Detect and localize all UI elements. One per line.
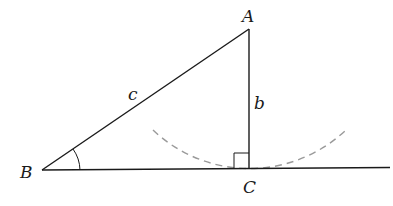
vertex-label-c: C (243, 177, 256, 197)
dashed-arc (153, 128, 348, 169)
side-label-c: c (128, 84, 138, 104)
baseline (42, 168, 390, 171)
angle-arc-b (73, 149, 80, 170)
vertex-label-b: B (19, 162, 33, 182)
right-angle-marker (234, 153, 249, 169)
triangle-diagram: A B C c b (0, 0, 393, 206)
vertex-label-a: A (240, 6, 254, 26)
side-c (42, 29, 249, 170)
side-label-b: b (254, 93, 265, 113)
